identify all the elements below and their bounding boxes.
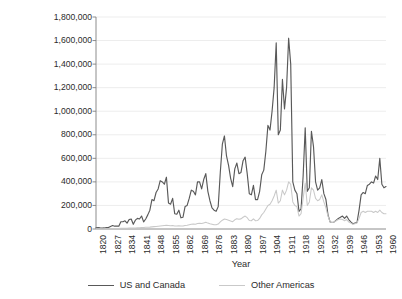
legend-item[interactable]: US and Canada (88, 280, 185, 290)
legend-line-swatch (88, 285, 114, 286)
x-axis-tick-label: 1855 (172, 235, 181, 254)
legend-item[interactable]: Other Americas (219, 280, 314, 290)
x-axis-tick-label: 1953 (375, 235, 384, 254)
legend-label: Other Americas (251, 280, 314, 290)
x-axis-tick-label: 1876 (215, 235, 224, 254)
chart-legend: US and CanadaOther Americas (0, 276, 402, 294)
x-axis-tick-label: 1911 (288, 236, 297, 254)
x-axis-tick-label: 1848 (157, 235, 166, 254)
x-axis-tick-label: 1939 (346, 235, 355, 254)
x-axis-title: Year (96, 259, 386, 269)
x-axis-tick-label: 1960 (389, 235, 398, 254)
x-axis-tick-label: 1883 (230, 235, 239, 254)
x-axis-tick-label: 1862 (186, 235, 195, 254)
x-axis-tick-label: 1841 (143, 235, 152, 254)
chart-figure: Settler migration 0200,000400,000600,000… (0, 0, 402, 299)
x-axis-tick-label: 1932 (331, 235, 340, 254)
legend-line-swatch (219, 285, 245, 286)
x-axis-tick-labels: 1820182718341841184818551862186918761883… (0, 0, 402, 299)
x-axis-tick-label: 1925 (317, 235, 326, 254)
x-axis-tick-label: 1834 (128, 235, 137, 254)
x-axis-tick-label: 1869 (201, 235, 210, 254)
x-axis-tick-label: 1946 (360, 235, 369, 254)
x-axis-tick-label: 1890 (244, 235, 253, 254)
x-axis-tick-label: 1897 (259, 235, 268, 254)
x-axis-tick-label: 1820 (99, 235, 108, 254)
x-axis-tick-label: 1918 (302, 235, 311, 254)
x-axis-tick-label: 1904 (273, 235, 282, 254)
x-axis-tick-label: 1827 (114, 235, 123, 254)
legend-label: US and Canada (120, 280, 185, 290)
